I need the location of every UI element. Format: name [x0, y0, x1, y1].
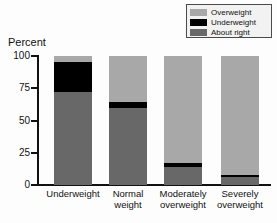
stacked-bar[interactable] [109, 56, 147, 185]
x-axis-label: Severelyoverweight [209, 189, 271, 210]
x-axis-label-line: overweight [209, 200, 271, 211]
legend-label-overweight: Overweight [211, 8, 251, 17]
bar-segment [164, 56, 202, 163]
x-axis-label-line: Normal [97, 189, 159, 200]
x-axis-label-line: Underweight [42, 189, 104, 200]
y-tick-label: 25 [4, 147, 30, 158]
chart-page: Overweight Underweight About right Perce… [0, 0, 277, 223]
y-axis-ticks: 0255075100 [0, 0, 30, 223]
y-tick-mark [31, 120, 38, 122]
y-tick-mark [31, 152, 38, 154]
y-tick-mark [31, 55, 38, 57]
y-tick-mark [31, 184, 38, 186]
x-axis-label-line: overweight [152, 200, 214, 211]
legend-swatch-underweight-icon [190, 19, 207, 26]
x-axis-label: Moderatelyoverweight [152, 189, 214, 210]
chart-legend: Overweight Underweight About right [186, 4, 272, 38]
x-axis-label: Normalweight [97, 189, 159, 210]
stacked-bar[interactable] [164, 56, 202, 185]
bar-segment [221, 177, 259, 185]
x-axis-label-line: weight [97, 200, 159, 211]
bar-segment [109, 108, 147, 185]
legend-item-overweight: Overweight [190, 7, 268, 17]
stacked-bar[interactable] [221, 56, 259, 185]
bar-segment [109, 56, 147, 102]
legend-swatch-about-right-icon [190, 29, 207, 36]
x-axis-label-line: Moderately [152, 189, 214, 200]
y-tick-mark [31, 87, 38, 89]
stacked-bar[interactable] [54, 56, 92, 185]
y-tick-label: 100 [4, 50, 30, 61]
x-axis-label-line: Severely [209, 189, 271, 200]
plot-area [38, 56, 270, 185]
y-tick-label: 0 [4, 179, 30, 190]
legend-item-underweight: Underweight [190, 17, 268, 27]
legend-swatch-overweight-icon [190, 9, 207, 16]
x-axis-label: Underweight [42, 189, 104, 200]
legend-item-about-right: About right [190, 27, 268, 37]
bar-segment [54, 62, 92, 92]
legend-label-about-right: About right [211, 28, 250, 37]
y-tick-label: 50 [4, 115, 30, 126]
bar-segment [54, 92, 92, 185]
bar-segment [164, 167, 202, 185]
legend-label-underweight: Underweight [211, 18, 256, 27]
y-tick-label: 75 [4, 82, 30, 93]
bar-segment [221, 56, 259, 175]
